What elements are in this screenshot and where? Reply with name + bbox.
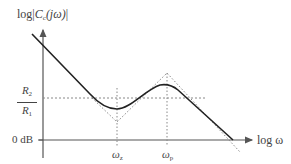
y-label-suffix: | [66, 7, 68, 21]
x-axis-label: log ω [257, 133, 283, 148]
omega-p-label: ωp [162, 148, 173, 162]
omega-z-sub: z [120, 154, 123, 162]
magnitude-curve [32, 34, 233, 140]
omega-z-label: ωz [112, 148, 123, 162]
y-axis-label: log|Cc(jω)| [17, 7, 68, 22]
y-label-var: C [35, 7, 43, 21]
den-var: R [22, 104, 29, 116]
bode-diagram [0, 0, 291, 164]
den-sub: 1 [29, 110, 33, 118]
frac-numerator: R2 [17, 84, 37, 103]
y-label-arg: (jω) [46, 7, 66, 21]
frac-denominator: R1 [17, 103, 37, 121]
omega-z-var: ω [112, 148, 120, 160]
num-sub: 2 [29, 90, 33, 98]
gain-level-label: R2 R1 [17, 84, 37, 121]
zero-db-label: 0 dB [12, 133, 33, 145]
omega-p-var: ω [162, 148, 170, 160]
num-var: R [22, 84, 29, 96]
omega-p-sub: p [170, 154, 174, 162]
y-label-prefix: log| [17, 7, 35, 21]
